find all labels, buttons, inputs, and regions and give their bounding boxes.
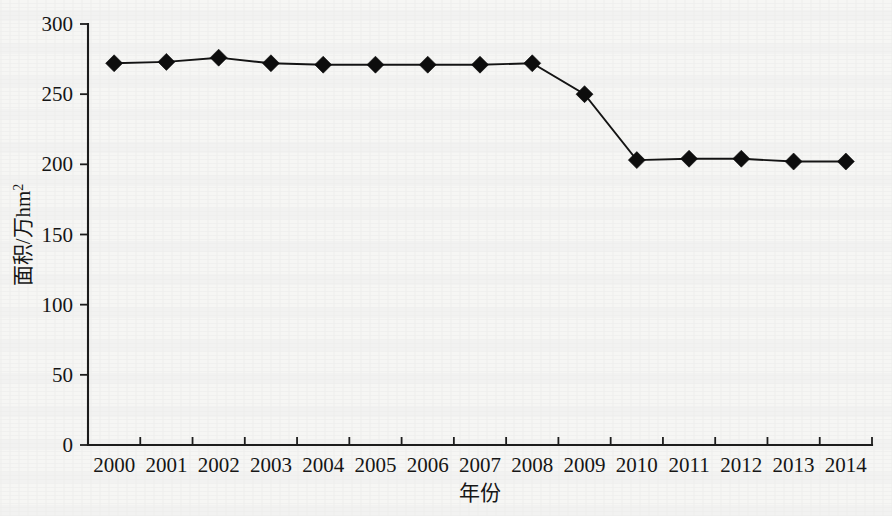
x-tick-label: 2003 [250,453,292,477]
x-tick-label: 2008 [511,453,553,477]
x-tick-label: 2006 [407,453,449,477]
data-point-marker: 2014: 202 [837,153,854,170]
x-tick-label: 2005 [354,453,396,477]
x-tick-label: 2014 [825,453,868,477]
y-axis-title-superscript: 2 [11,184,26,191]
data-point-marker: 2009: 250 [576,86,593,103]
x-tick-label: 2012 [720,453,762,477]
x-axis-tick-labels: 2000200120022003200420052006200720082009… [93,453,867,477]
y-tick-label: 150 [42,223,74,247]
chart-figure: 050100150200250300 200020012002200320042… [0,0,892,516]
data-point-marker: 2002: 276 [210,49,227,66]
x-tick-label: 2013 [773,453,815,477]
data-point-marker: 2008: 272 [524,55,541,72]
x-axis-ticks [88,437,872,445]
y-tick-label: 50 [52,363,73,387]
x-tick-label: 2010 [616,453,658,477]
y-axis-title-group: 面积/万hm2 [11,184,35,287]
data-point-marker: 2001: 273 [158,53,175,70]
x-tick-label: 2011 [668,453,709,477]
data-point-marker: 2010: 203 [628,152,645,169]
data-point-marker: 2003: 272 [262,55,279,72]
data-point-marker: 2007: 271 [472,56,489,73]
data-point-marker: 2006: 271 [419,56,436,73]
series-markers: 2000: 2722001: 2732002: 2762003: 2722004… [106,49,855,170]
data-point-marker: 2005: 271 [367,56,384,73]
x-tick-label: 2000 [93,453,135,477]
y-tick-label: 200 [42,152,74,176]
x-tick-label: 2002 [198,453,240,477]
data-point-marker: 2011: 204 [681,150,698,167]
x-tick-label: 2004 [302,453,345,477]
data-series: 2000: 2722001: 2732002: 2762003: 2722004… [106,49,855,170]
y-tick-label: 0 [63,433,74,457]
y-tick-label: 100 [42,293,74,317]
data-point-marker: 2013: 202 [785,153,802,170]
line-chart: 050100150200250300 200020012002200320042… [0,0,892,516]
y-axis-title-base: 面积/万hm [11,191,35,287]
y-axis-title: 面积/万hm2 [11,184,35,287]
y-tick-label: 300 [42,12,74,36]
x-tick-label: 2007 [459,453,501,477]
x-tick-label: 2001 [145,453,187,477]
data-point-marker: 2012: 204 [733,150,750,167]
chart-axes [88,24,872,445]
x-axis-title: 年份 [459,481,501,505]
y-tick-label: 250 [42,82,74,106]
data-point-marker: 2004: 271 [315,56,332,73]
y-axis-ticks: 050100150200250300 [42,12,89,457]
x-tick-label: 2009 [564,453,606,477]
data-point-marker: 2000: 272 [106,55,123,72]
